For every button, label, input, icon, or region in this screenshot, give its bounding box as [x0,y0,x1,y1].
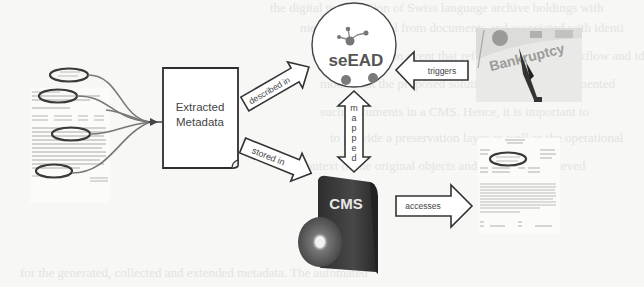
extracted-metadata-line1: Extracted [176,101,225,113]
accesses-arrow: accesses [396,185,472,227]
extracted-metadata-box: Extracted Metadata [163,68,238,168]
source-document [30,69,162,204]
mapped-letter: p [351,133,356,143]
seead-label: seEAD [329,51,384,70]
mapped-letter: d [351,153,356,163]
triggers-arrow: triggers [396,52,468,89]
extracted-metadata-line2: Metadata [176,116,225,128]
described-in-arrow: described in [237,54,316,117]
seead-node: seEAD [312,3,396,87]
mapped-letter: m [350,103,358,113]
bankruptcy-image: Bankruptcy [476,28,582,102]
mapped-arrow: m a p p e d [338,91,370,172]
cms-label: CMS [329,195,362,212]
accesses-label: accesses [405,201,440,211]
mapped-letter: a [351,113,356,123]
stored-in-arrow: stored in [237,132,317,188]
output-document [478,138,560,234]
mapped-letter: p [351,123,356,133]
cms-node: CMS [298,176,378,274]
highlight-ellipse [50,69,88,82]
mapped-letter: e [351,143,356,153]
cd-disc-icon [298,217,342,267]
triggers-label: triggers [428,66,456,76]
